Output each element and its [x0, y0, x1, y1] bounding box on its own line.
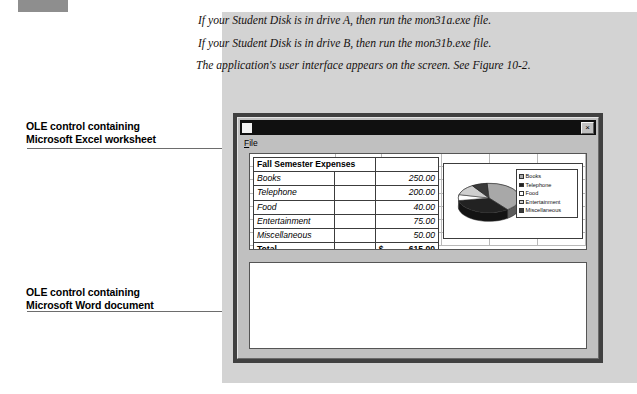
worksheet-total-row: Total$615.00 [254, 243, 439, 250]
worksheet-row-spacer [335, 186, 376, 200]
document-icon [242, 123, 252, 133]
callout-word: OLE control containing Microsoft Word do… [26, 286, 154, 312]
embedded-pie-chart[interactable]: BooksTelephoneFoodEntertainmentMiscellan… [443, 163, 583, 239]
worksheet-row-spacer [335, 214, 376, 228]
instruction-text-block: If your Student Disk is in drive A, then… [198, 14, 618, 82]
chart-legend-label: Telephone [526, 181, 552, 190]
chart-legend-label: Food [526, 189, 539, 198]
worksheet-row-amount: 40.00 [375, 200, 438, 214]
callout-excel-leader-line [27, 148, 246, 149]
callout-excel: OLE control containing Microsoft Excel w… [26, 120, 156, 146]
worksheet-title-row: Fall Semester Expenses [254, 158, 439, 172]
instruction-line-1: If your Student Disk is in drive A, then… [198, 14, 618, 27]
chart-legend-item: Telephone [519, 181, 575, 190]
worksheet-row-spacer [335, 229, 376, 243]
worksheet-total-label: Total [254, 243, 335, 250]
ole-control-word-document[interactable] [249, 262, 587, 349]
worksheet-row-amount: 75.00 [375, 214, 438, 228]
worksheet-total-amount: $615.00 [375, 243, 438, 250]
worksheet-total-spacer [335, 243, 376, 250]
worksheet-row-amount: 250.00 [375, 172, 438, 186]
worksheet-row-label: Entertainment [254, 214, 335, 228]
worksheet-row-label: Miscellaneous [254, 229, 335, 243]
chart-legend-label: Miscellaneous [526, 206, 561, 215]
chart-legend-item: Books [519, 172, 575, 181]
application-window: × File Fall Semester ExpensesBooks250.00… [233, 113, 603, 363]
callout-excel-line1: OLE control containing [26, 120, 156, 133]
worksheet-row-amount: 200.00 [375, 186, 438, 200]
worksheet-row-label: Food [254, 200, 335, 214]
legend-swatch-icon [519, 174, 524, 179]
chart-legend-label: Entertainment [526, 198, 561, 207]
worksheet-row: Telephone200.00 [254, 186, 439, 200]
menu-item-file-rest: ile [249, 138, 258, 148]
instruction-line-2: If your Student Disk is in drive B, then… [198, 37, 618, 50]
legend-swatch-icon [519, 200, 524, 205]
chart-legend-item: Food [519, 189, 575, 198]
worksheet-total-currency: $ [379, 243, 384, 250]
callout-word-leader-line [27, 311, 244, 312]
chart-legend-item: Miscellaneous [519, 206, 575, 215]
window-titlebar[interactable]: × [240, 120, 596, 135]
chart-legend-label: Books [526, 172, 542, 181]
callout-excel-line2: Microsoft Excel worksheet [26, 133, 156, 146]
worksheet-row: Food40.00 [254, 200, 439, 214]
chart-legend: BooksTelephoneFoodEntertainmentMiscellan… [516, 169, 578, 218]
worksheet-row: Miscellaneous50.00 [254, 229, 439, 243]
worksheet-row-spacer [335, 172, 376, 186]
callout-word-line1: OLE control containing [26, 286, 154, 299]
worksheet-title-blank [375, 158, 438, 172]
instruction-line-3: The application's user interface appears… [196, 59, 618, 72]
menu-item-file[interactable]: File [244, 138, 258, 148]
application-window-client: × File Fall Semester ExpensesBooks250.00… [237, 117, 599, 359]
close-icon[interactable]: × [581, 122, 594, 134]
worksheet-row: Books250.00 [254, 172, 439, 186]
legend-swatch-icon [519, 191, 524, 196]
menubar: File [240, 136, 596, 149]
worksheet-title: Fall Semester Expenses [254, 158, 376, 172]
worksheet-table[interactable]: Fall Semester ExpensesBooks250.00Telepho… [253, 157, 439, 250]
ole-control-excel-worksheet[interactable]: Fall Semester ExpensesBooks250.00Telepho… [249, 153, 587, 250]
legend-swatch-icon [519, 208, 524, 213]
legend-swatch-icon [519, 183, 524, 188]
worksheet-row-spacer [335, 200, 376, 214]
chart-legend-item: Entertainment [519, 198, 575, 207]
worksheet-row-amount: 50.00 [375, 229, 438, 243]
page-corner-marker [18, 0, 68, 12]
worksheet-row-label: Books [254, 172, 335, 186]
worksheet-row: Entertainment75.00 [254, 214, 439, 228]
worksheet-row-label: Telephone [254, 186, 335, 200]
